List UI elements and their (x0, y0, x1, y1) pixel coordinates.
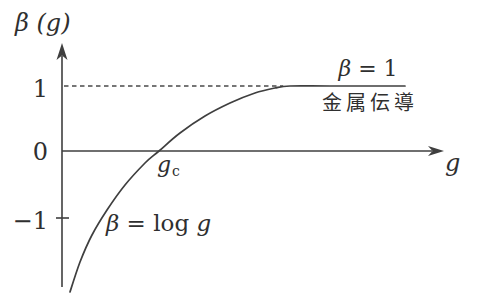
asymptote-label-value: = 1 (351, 56, 397, 81)
x-axis-title: g (445, 151, 460, 175)
y-tick-label-minus1: −1 (8, 209, 48, 233)
beta-curve (70, 86, 405, 292)
critical-point-symbol: g (157, 152, 171, 177)
log-curve-label-log: log (153, 210, 196, 236)
log-curve-label-beta: β = (106, 210, 153, 236)
log-curve-label: β = log g (106, 212, 211, 235)
critical-point-subscript: c (172, 163, 180, 179)
y-tick-label-0: 0 (26, 140, 48, 164)
y-tick-label-1: 1 (26, 77, 48, 101)
asymptote-label-beta: β (338, 56, 351, 81)
asymptote-label: β = 1 (336, 58, 400, 80)
y-axis-title: β (g) (15, 11, 71, 35)
metallic-conduction-caption: 金属伝導 (322, 93, 418, 113)
figure-canvas: β (g) 1 0 −1 gc β = log g β = 1 金属伝導 g (0, 0, 481, 304)
critical-point-label: gc (157, 154, 180, 178)
plot-area (0, 0, 481, 304)
log-curve-label-g: g (196, 210, 211, 236)
